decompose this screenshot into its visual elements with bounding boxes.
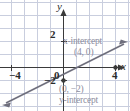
x-axis-label: x bbox=[121, 61, 126, 72]
x-intercept-coordinate-label: (4, 0) bbox=[74, 47, 93, 57]
x-intercept-annotation: x-intercept bbox=[63, 36, 102, 46]
y-intercept-annotation: y-intercept bbox=[59, 95, 98, 105]
y-axis-label: y bbox=[57, 1, 62, 12]
y-tick-label-two: 2 bbox=[50, 29, 56, 40]
y-intercept-point-marker bbox=[61, 78, 65, 82]
x-tick-label-neg4: −4 bbox=[9, 70, 21, 81]
y-tick-label-neg-two: −2 bbox=[44, 75, 56, 86]
y-intercept-coordinate-label: (0, −2) bbox=[59, 84, 84, 94]
graph-figure: y x −4 0 4 2 −2 x-intercept (4, 0) (0, −… bbox=[0, 0, 130, 111]
x-tick-label-four: 4 bbox=[112, 70, 118, 81]
